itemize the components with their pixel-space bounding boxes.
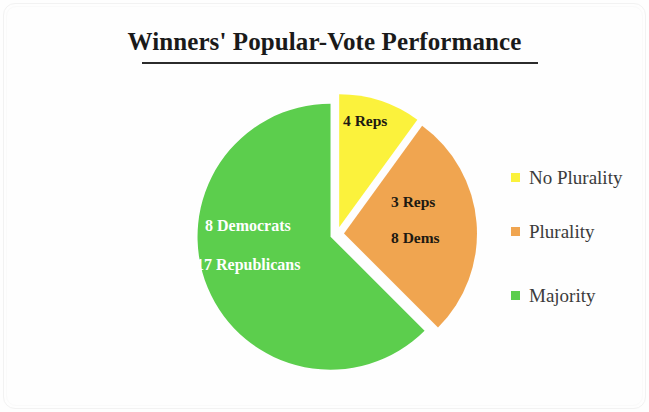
legend-item-majority: Majority [511, 284, 596, 306]
slice-label-no-plurality-reps: 4 Reps [343, 112, 387, 130]
chart-title: Winners' Popular-Vote Performance [0, 28, 649, 56]
pie-svg [190, 90, 490, 380]
slice-label-majority-democrats: 8 Democrats [205, 217, 291, 235]
pie-chart [190, 90, 490, 380]
slice-label-plurality-reps: 3 Reps [391, 193, 435, 211]
slice-label-majority-republicans: 17 Republicans [196, 256, 300, 274]
legend-swatch-majority-icon [511, 291, 520, 300]
legend-item-no-plurality: No Plurality [511, 166, 622, 188]
legend-label-majority: Majority [529, 286, 596, 305]
legend-label-no-plurality: No Plurality [529, 168, 622, 187]
slice-label-plurality-dems: 8 Dems [391, 229, 440, 247]
chart-page: Winners' Popular-Vote Performance 4 Reps… [0, 0, 649, 412]
legend-item-plurality: Plurality [511, 220, 594, 242]
legend-swatch-no-plurality-icon [511, 173, 520, 182]
legend-swatch-plurality-icon [511, 227, 520, 236]
chart-title-underline [142, 62, 538, 64]
legend-label-plurality: Plurality [529, 222, 594, 241]
